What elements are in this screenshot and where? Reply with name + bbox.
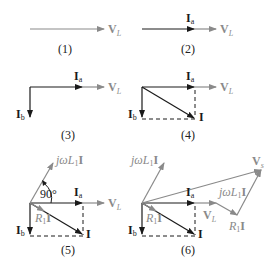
jwl-chain-label: jωL1I bbox=[217, 185, 246, 200]
i-arrow bbox=[142, 87, 194, 118]
vl-label: VL bbox=[108, 80, 122, 96]
ia-label: Ia bbox=[74, 69, 83, 84]
caption-1: (1) bbox=[58, 42, 72, 56]
jwl-arrow bbox=[142, 163, 164, 203]
panel-2: Ia VL (2) bbox=[142, 11, 234, 56]
panel-5: 90° Ia VL Ib I jωL1I R1I (5) bbox=[16, 153, 122, 257]
caption-2: (2) bbox=[181, 42, 195, 56]
caption-4: (4) bbox=[181, 128, 195, 142]
ib-label: Ib bbox=[128, 107, 137, 122]
vl-label: VL bbox=[108, 22, 122, 38]
panel-6: Ia VL Ib I jωL1I R1I jωL1I R1I Vs (6) bbox=[128, 153, 264, 257]
ib-label: Ib bbox=[16, 107, 25, 122]
vl-label: VL bbox=[108, 196, 122, 212]
caption-3: (3) bbox=[61, 128, 75, 142]
ia-label: Ia bbox=[186, 69, 195, 84]
r1-arrow bbox=[30, 203, 44, 211]
jwl-label: jωL1I bbox=[54, 153, 83, 168]
caption-5: (5) bbox=[61, 243, 75, 257]
ib-label: Ib bbox=[16, 223, 25, 238]
jwl-label: jωL1I bbox=[129, 153, 158, 168]
vs-label: Vs bbox=[252, 154, 264, 170]
ia-label: Ia bbox=[186, 185, 195, 200]
vl-label: VL bbox=[220, 22, 234, 38]
vl-label: VL bbox=[203, 208, 217, 224]
panel-3: Ia VL Ib (3) bbox=[16, 69, 122, 142]
r1-arrow bbox=[142, 203, 156, 211]
r1-label: R1I bbox=[145, 211, 162, 226]
caption-6: (6) bbox=[181, 243, 195, 257]
panel-4: Ia VL Ib I (4) bbox=[128, 69, 234, 142]
phasor-diagram: VL (1) Ia VL (2) Ia VL Ib (3) Ia VL Ib I… bbox=[0, 0, 277, 269]
panel-1: VL (1) bbox=[30, 22, 122, 56]
r1-chain-label: R1I bbox=[228, 219, 245, 234]
i-label: I bbox=[199, 110, 204, 124]
ia-label: Ia bbox=[74, 185, 83, 200]
r1-label: R1I bbox=[34, 211, 51, 226]
r1-chain-arrow bbox=[216, 203, 237, 215]
ib-label: Ib bbox=[128, 223, 137, 238]
angle-label: 90° bbox=[40, 187, 57, 201]
vl-label: VL bbox=[220, 80, 234, 96]
i-label: I bbox=[198, 227, 203, 241]
ia-label: Ia bbox=[186, 11, 195, 26]
i-label: I bbox=[86, 227, 91, 241]
